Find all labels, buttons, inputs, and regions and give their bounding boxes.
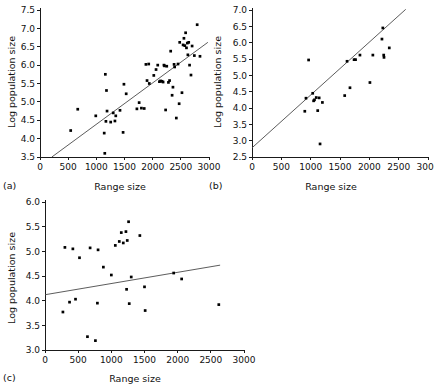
x-tick-label: 2000 (141, 162, 164, 172)
x-tick-label: 1500 (133, 355, 156, 365)
panel-c-ylabel-group: Log population size (6, 232, 17, 324)
c-axis-spines (45, 200, 244, 350)
x-tick-label: 2500 (387, 162, 410, 172)
y-tick-label: 4.5 (233, 87, 247, 97)
data-point (173, 63, 176, 66)
x-tick-label: 2500 (199, 355, 222, 365)
data-point (173, 66, 176, 69)
panel-a-svg: Log population size 3.54.04.55.05.56.06.… (0, 0, 215, 195)
data-point (321, 101, 324, 104)
data-point (165, 65, 168, 68)
data-point (62, 311, 65, 314)
x-tick-label: 1500 (329, 162, 352, 172)
data-point (136, 108, 139, 111)
panel-a-plot: 3.54.04.55.05.56.06.57.07.50500100015002… (21, 5, 221, 172)
x-tick-label: 500 (60, 162, 77, 172)
data-point (139, 234, 142, 237)
b-axis-spines (252, 8, 428, 157)
data-point (184, 31, 187, 34)
y-tick-label: 7.5 (21, 5, 35, 15)
y-tick-label: 4.0 (21, 134, 36, 144)
data-point (122, 131, 125, 134)
data-point (169, 50, 172, 53)
data-point (349, 86, 352, 89)
data-point (114, 120, 117, 123)
data-point (354, 58, 357, 61)
panel-c-svg: Log population size 3.03.54.04.55.05.56.… (0, 190, 250, 387)
data-point (152, 74, 155, 77)
data-point (172, 272, 175, 275)
data-point (381, 27, 384, 30)
data-point (114, 114, 117, 117)
data-point (143, 286, 146, 289)
data-point (103, 132, 106, 135)
x-tick-label: 2000 (166, 355, 189, 365)
panel-c-x-axis-title: Range size (109, 373, 161, 384)
data-point (125, 92, 128, 95)
panel-b-plot: 2.53.03.54.04.55.05.56.06.57.00500100015… (233, 5, 434, 172)
x-tick-label: 0 (37, 162, 43, 172)
y-tick-label: 6.0 (26, 197, 41, 207)
data-point (146, 79, 149, 82)
data-point (68, 301, 71, 304)
data-point (127, 220, 130, 223)
data-point (388, 47, 391, 50)
regression-line (45, 265, 220, 295)
data-point (307, 59, 310, 62)
data-point (171, 94, 174, 97)
panel-c-y-axis-title: Log population size (6, 232, 17, 324)
a-axis-spines (40, 8, 209, 157)
data-point (69, 129, 72, 132)
panel-b-ylabel-group: Log population size (212, 36, 223, 128)
data-point (112, 112, 115, 115)
panel-a-ylabel-group: Log population size (6, 36, 17, 128)
data-point (191, 45, 194, 48)
data-point (118, 240, 121, 243)
data-point (126, 239, 129, 242)
data-point (140, 107, 143, 110)
data-point (138, 101, 141, 104)
x-tick-label: 1500 (113, 162, 136, 172)
data-point (199, 55, 202, 58)
data-point (196, 23, 199, 26)
y-tick-label: 4.0 (233, 103, 248, 113)
data-point (190, 74, 193, 77)
data-point (185, 47, 188, 50)
y-tick-label: 3.5 (233, 120, 247, 130)
x-tick-label: 2500 (169, 162, 192, 172)
data-point (125, 288, 128, 291)
data-point (96, 302, 99, 305)
y-tick-label: 4.5 (26, 271, 40, 281)
data-point (359, 54, 362, 57)
data-point (106, 110, 109, 113)
x-tick-label: 1000 (85, 162, 108, 172)
x-tick-label: 0 (42, 355, 48, 365)
data-point (318, 97, 321, 100)
data-point (148, 82, 151, 85)
data-point (78, 256, 81, 259)
data-point (343, 94, 346, 97)
x-tick-label: 3000 (233, 355, 256, 365)
data-point (372, 54, 375, 57)
y-tick-label: 4.5 (21, 115, 35, 125)
data-point (110, 274, 113, 277)
data-point (86, 335, 89, 338)
y-tick-label: 5.0 (233, 71, 248, 81)
data-point (187, 41, 190, 44)
regression-line (52, 42, 208, 157)
data-point (120, 231, 123, 234)
panel-c: Log population size 3.03.54.04.55.05.56.… (0, 190, 250, 387)
panel-a: Log population size 3.54.04.55.05.56.06.… (0, 0, 215, 195)
y-tick-label: 7.0 (233, 5, 248, 15)
data-point (74, 298, 77, 301)
data-point (125, 230, 128, 233)
data-point (103, 152, 106, 155)
panel-c-label: (c) (3, 372, 16, 383)
y-tick-label: 7.0 (21, 24, 36, 34)
data-point (76, 108, 79, 111)
panel-b-y-axis-title: Log population size (212, 36, 223, 128)
y-tick-label: 3.0 (233, 136, 248, 146)
data-point (178, 41, 181, 44)
y-tick-label: 6.0 (233, 38, 248, 48)
data-point (94, 114, 97, 117)
